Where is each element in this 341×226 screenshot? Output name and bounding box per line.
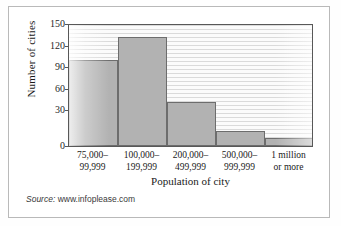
x-axis-ticks: 75,000– 99,999 100,000– 199,999 200,000–… <box>68 150 313 176</box>
x-tick-1million-or-more: 1 million or more <box>264 150 313 176</box>
plot-area <box>68 24 313 147</box>
x-tick-line2: 99,999 <box>68 162 117 174</box>
y-tick-label: 120 <box>41 41 65 51</box>
source-text: www.infoplease.com <box>58 194 135 204</box>
x-tick-line2: 199,999 <box>117 162 166 174</box>
bar-75000-99999 <box>69 60 118 146</box>
y-tick-label: 0 <box>41 141 65 151</box>
x-axis-title: Population of city <box>68 175 313 187</box>
x-tick-line2: 999,999 <box>215 162 264 174</box>
x-tick-line1: 100,000– <box>117 150 166 162</box>
x-tick-line1: 500,000– <box>215 150 264 162</box>
y-tick-label: 60 <box>41 84 65 94</box>
source-note: Source: www.infoplease.com <box>26 194 135 204</box>
y-axis-title: Number of cities <box>25 0 37 119</box>
chart-figure: Number of cities 150 120 90 60 30 0 75,0… <box>0 0 341 226</box>
x-tick-200000-499999: 200,000– 499,999 <box>166 150 215 176</box>
bar-100000-199999 <box>118 37 167 146</box>
y-tick-label: 30 <box>41 105 65 115</box>
x-tick-line2: or more <box>264 162 313 174</box>
x-tick-line2: 499,999 <box>166 162 215 174</box>
x-tick-line1: 75,000– <box>68 150 117 162</box>
x-tick-75000-99999: 75,000– 99,999 <box>68 150 117 176</box>
y-tick-label: 90 <box>41 62 65 72</box>
y-tick-label: 150 <box>41 19 65 29</box>
bar-500000-999999 <box>216 131 265 146</box>
x-tick-500000-999999: 500,000– 999,999 <box>215 150 264 176</box>
bar-1million-or-more <box>265 138 313 146</box>
x-tick-line1: 1 million <box>264 150 313 162</box>
source-prefix: Source: <box>26 194 55 204</box>
x-tick-line1: 200,000– <box>166 150 215 162</box>
bar-200000-499999 <box>167 102 216 146</box>
y-axis-ticks: 150 120 90 60 30 0 <box>40 24 65 147</box>
x-tick-100000-199999: 100,000– 199,999 <box>117 150 166 176</box>
